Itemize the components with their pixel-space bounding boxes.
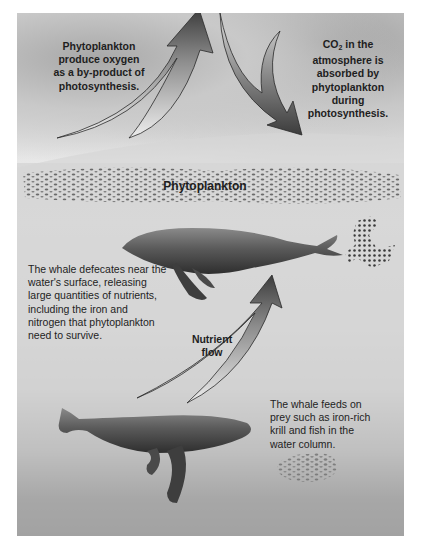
defecate-label: The whale defecates near the water's sur…	[28, 263, 188, 342]
oxygen-line-2: produce oxygen	[44, 53, 154, 66]
defecate-line-6: need to survive.	[28, 329, 188, 342]
nutrient-flow-label: Nutrient flow	[187, 333, 237, 359]
defecate-line-1: The whale defecates near the	[28, 263, 188, 276]
co2-suffix: in the	[342, 38, 373, 50]
nutrient-line-1: Nutrient	[187, 333, 237, 346]
co2-line-2: atmosphere is	[302, 54, 394, 67]
feeds-line-2: prey such as iron-rich	[270, 411, 400, 424]
co2-line-1: CO2 in the	[302, 38, 394, 54]
defecate-line-5: nitrogen that phytoplankton	[28, 316, 188, 329]
co2-label: CO2 in the atmosphere is absorbed by phy…	[302, 38, 394, 120]
nutrient-line-2: flow	[187, 346, 237, 359]
oxygen-line-3: as a by-product of	[44, 66, 154, 79]
oxygen-line-4: photosynthesis.	[44, 80, 154, 93]
oxygen-line-1: Phytoplankton	[44, 40, 154, 53]
defecate-line-4: including the iron and	[28, 303, 188, 316]
co2-line-4: phytoplankton	[302, 81, 394, 94]
defecate-line-3: large quantities of nutrients,	[28, 289, 188, 302]
phytoplankton-label: Phytoplankton	[150, 180, 260, 193]
co2-text: CO	[323, 38, 339, 50]
defecate-line-2: water's surface, releasing	[28, 276, 188, 289]
co2-line-3: absorbed by	[302, 67, 394, 80]
co2-line-5: during	[302, 94, 394, 107]
diagram-panel: Phytoplankton produce oxygen as a by-pro…	[17, 13, 404, 536]
oxygen-label: Phytoplankton produce oxygen as a by-pro…	[44, 40, 154, 93]
feeds-line-4: water column.	[270, 438, 400, 451]
feeds-line-3: krill and fish in the	[270, 424, 400, 437]
feeds-line-1: The whale feeds on	[270, 398, 400, 411]
feeds-label: The whale feeds on prey such as iron-ric…	[270, 398, 400, 451]
co2-line-6: photosynthesis.	[302, 107, 394, 120]
co2-arrow	[220, 13, 302, 135]
